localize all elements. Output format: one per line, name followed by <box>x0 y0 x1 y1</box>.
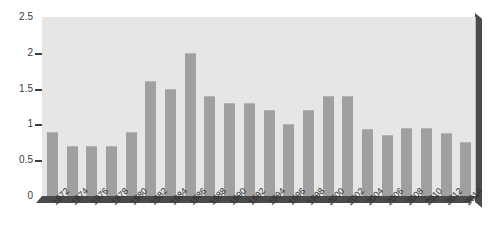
bar-2000 <box>323 96 334 196</box>
bar-1998 <box>303 110 314 196</box>
plot-area <box>42 17 476 196</box>
y-tick-label: 1.5 <box>19 83 33 95</box>
bar-1980 <box>126 132 137 196</box>
bar-1982 <box>145 81 156 196</box>
y-tick-label: 2.5 <box>19 11 33 23</box>
bar-1986 <box>185 53 196 196</box>
bar-1990 <box>224 103 235 196</box>
bar-2010 <box>421 128 432 196</box>
bar-1972 <box>47 132 58 196</box>
bar-2014 <box>460 142 471 196</box>
bar-1974 <box>67 146 78 196</box>
bar-2012 <box>441 133 452 196</box>
y-tick-label: 0.5 <box>19 154 33 166</box>
y-tick-label: 0 <box>27 190 33 202</box>
bar-2004 <box>362 129 373 196</box>
y-tick-mark <box>35 124 42 126</box>
bar-1978 <box>106 146 117 196</box>
y-tick-mark <box>35 160 42 162</box>
x-axis: 1972197419761978198019821984198619881990… <box>42 200 482 234</box>
y-tick-mark <box>35 89 42 91</box>
bar-2006 <box>382 135 393 196</box>
y-tick-label: 2 <box>27 47 33 59</box>
y-tick-label: 1 <box>27 118 33 130</box>
bar-1984 <box>165 89 176 196</box>
bar-2008 <box>401 128 412 196</box>
bar-1992 <box>244 103 255 196</box>
bar-chart: 00.511.522.5 197219741976197819801982198… <box>0 0 500 234</box>
bar-2002 <box>342 96 353 196</box>
bar-1988 <box>204 96 215 196</box>
bar-1994 <box>264 110 275 196</box>
bar-1996 <box>283 124 294 196</box>
bar-series <box>42 17 475 196</box>
y-axis: 00.511.522.5 <box>0 0 42 234</box>
bar-1976 <box>86 146 97 196</box>
y-tick-mark <box>35 53 42 55</box>
panel-3d-edge-right <box>475 13 482 208</box>
